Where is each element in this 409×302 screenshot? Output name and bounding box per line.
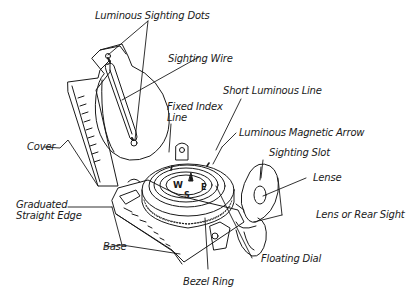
label-floating-dial: Floating Dial — [261, 253, 321, 264]
dial-letter-south: S — [184, 190, 190, 201]
compass-diagram: W E S Luminous Sighting Dots Sighting Wi… — [0, 0, 409, 302]
base — [112, 143, 244, 264]
label-lense: Lense — [313, 172, 341, 183]
label-bezel-ring: Bezel Ring — [183, 276, 234, 287]
compass-illustration — [0, 0, 409, 302]
label-graduated-straight-edge-1: Graduated — [16, 199, 67, 210]
label-sighting-wire: Sighting Wire — [168, 53, 233, 64]
dial-letter-west: W — [173, 180, 183, 191]
cover-lid — [92, 44, 169, 160]
label-lens-or-rear-sight: Lens or Rear Sight — [316, 209, 405, 220]
label-fixed-index-line-1: Fixed Index — [167, 101, 223, 112]
cover-panel — [68, 60, 118, 186]
label-base: Base — [103, 241, 127, 252]
label-sighting-slot: Sighting Slot — [269, 147, 330, 158]
label-short-luminous-line: Short Luminous Line — [223, 85, 322, 96]
label-graduated-straight-edge-2: Straight Edge — [16, 210, 82, 221]
dial-letter-east: E — [201, 182, 206, 193]
label-luminous-magnetic-arrow: Luminous Magnetic Arrow — [239, 127, 364, 138]
label-luminous-sighting-dots: Luminous Sighting Dots — [95, 10, 210, 21]
label-fixed-index-line-2: Line — [167, 112, 187, 123]
label-cover: Cover — [27, 141, 55, 152]
